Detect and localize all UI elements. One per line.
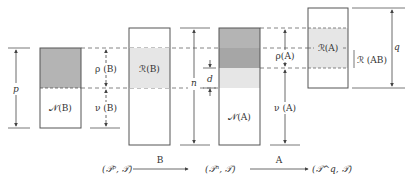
region-range-B-light <box>219 68 260 88</box>
null-A-label: 𝒩(A) <box>228 112 251 122</box>
dimension-n: n <box>180 28 210 145</box>
rho-B-label: ρ (B) <box>95 64 117 74</box>
q-label: q <box>394 42 400 52</box>
space-q-label: (𝒯^q, 𝒯) <box>312 164 353 174</box>
arrow-A-label: A <box>275 155 283 165</box>
nu-B-label: ν (B) <box>95 103 117 113</box>
mapping-row: (𝒯ᵖ, 𝒯) B (𝒯ⁿ, 𝒯) A (𝒯^q, 𝒯) <box>102 155 353 174</box>
box-domain-A: 𝒩(A) <box>219 28 260 145</box>
composition-diagram: 𝒩(B) p ρ (B) ν (B) ℛ(B) n d <box>0 0 410 183</box>
rowspace-B-region <box>40 48 81 88</box>
range-B-label: ℛ(B) <box>139 64 160 74</box>
arrow-B-label: B <box>157 155 164 165</box>
rho-A-label: ρ(A) <box>276 51 295 61</box>
dimension-q: q <box>352 8 405 88</box>
region-top-dark <box>219 28 260 48</box>
dimension-p: p <box>8 48 30 128</box>
dimension-rho-nu-A: ρ(A) ν (A) <box>270 30 300 145</box>
box-range-A: ℛ(A) <box>308 8 348 88</box>
region-intersection-darker <box>219 48 260 68</box>
n-label: n <box>191 78 197 88</box>
range-AB-bracket: ℛ (AB) <box>354 50 387 68</box>
d-label: d <box>207 74 213 84</box>
range-AB-label: ℛ (AB) <box>357 55 387 65</box>
p-label: p <box>13 84 19 94</box>
box-domain-B: 𝒩(B) <box>40 48 81 128</box>
dimension-d: d <box>203 60 216 96</box>
space-n-label: (𝒯ⁿ, 𝒯) <box>205 164 236 174</box>
dimension-rho-nu-B: ρ (B) ν (B) <box>90 50 120 128</box>
space-p-label: (𝒯ᵖ, 𝒯) <box>102 164 133 174</box>
null-B-label: 𝒩(B) <box>49 103 72 113</box>
nu-A-label: ν (A) <box>274 103 296 113</box>
range-A-label: ℛ(A) <box>318 43 339 53</box>
box-range-B: ℛ(B) <box>129 28 170 145</box>
